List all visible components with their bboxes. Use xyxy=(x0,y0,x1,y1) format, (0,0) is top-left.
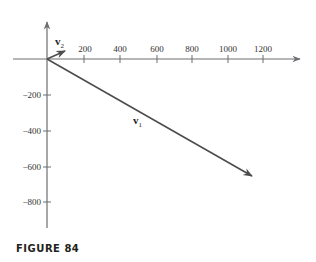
x-tick-label: 600 xyxy=(150,44,164,54)
x-tick-label: 800 xyxy=(185,44,199,54)
y-tick-label: −800 xyxy=(22,197,41,207)
vector-plot: 200 400 600 800 1000 1200 −200 −400 −600… xyxy=(0,0,316,262)
vector-v2 xyxy=(47,51,65,59)
x-tick-label: 400 xyxy=(113,44,127,54)
y-tick-label: −400 xyxy=(22,126,41,136)
x-tick-labels: 200 400 600 800 1000 1200 xyxy=(78,44,272,54)
x-tick-label: 1200 xyxy=(254,44,273,54)
vector-v2-label: v2 xyxy=(55,35,65,50)
x-tick-label: 200 xyxy=(78,44,92,54)
x-tick-label: 1000 xyxy=(219,44,238,54)
y-tick-label: −200 xyxy=(22,90,41,100)
y-tick-labels: −200 −400 −600 −800 xyxy=(22,90,41,207)
figure-caption: FIGURE 84 xyxy=(16,243,79,254)
vector-v1-label: v1 xyxy=(133,114,143,129)
y-tick-label: −600 xyxy=(22,162,41,172)
vector-v1 xyxy=(47,59,252,176)
